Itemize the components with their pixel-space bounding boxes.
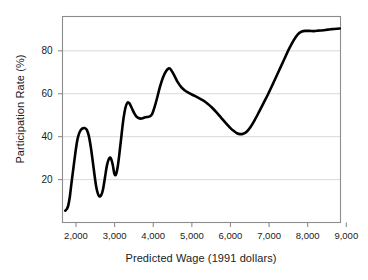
y-tick-label: 60 — [27, 89, 53, 99]
x-tick-label: 9,000 — [325, 231, 367, 241]
axis-ticks-group — [58, 51, 346, 227]
plot-frame-rect — [63, 17, 341, 223]
plot-frame — [63, 17, 341, 223]
x-tick-label: 8,000 — [287, 231, 329, 241]
y-tick-label: 40 — [27, 132, 53, 142]
chart-figure: Participation Rate (%) 20406080 2,0003,0… — [0, 0, 368, 280]
x-tick-label: 7,000 — [248, 231, 290, 241]
data-series-group — [65, 29, 340, 211]
x-tick-label: 5,000 — [171, 231, 213, 241]
y-tick-label: 80 — [27, 46, 53, 56]
x-tick-label: 2,000 — [55, 231, 97, 241]
x-axis-title: Predicted Wage (1991 dollars) — [62, 252, 340, 264]
y-tick-label: 20 — [27, 175, 53, 185]
x-tick-label: 4,000 — [132, 231, 174, 241]
x-tick-label: 3,000 — [94, 231, 136, 241]
gridlines-group — [63, 51, 341, 180]
plot-area: 20406080 2,0003,0004,0005,0006,0007,0008… — [0, 0, 368, 280]
x-tick-label: 6,000 — [209, 231, 251, 241]
data-line-participation-rate — [65, 29, 340, 211]
